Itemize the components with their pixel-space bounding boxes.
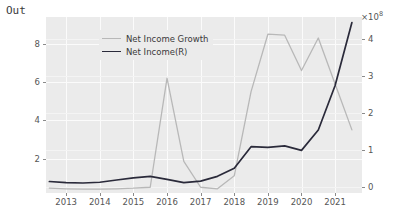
x-axis-tickmark <box>167 193 168 196</box>
y-axis-right-tickmark <box>362 113 365 114</box>
chart-legend: Net Income Growth Net Income(R) <box>99 30 213 60</box>
legend-color-swatch-net-income <box>102 51 121 52</box>
y-axis-left-tickmark <box>43 82 46 83</box>
y-axis-right-tickmark <box>362 39 365 40</box>
y-axis-right-tick-label: 1 <box>368 145 394 155</box>
legend-item-net-income[interactable]: Net Income(R) <box>102 46 208 57</box>
x-axis-tickmark <box>133 193 134 196</box>
y-axis-left-tick-label: 6 <box>14 77 40 87</box>
y-axis-right-tickmark <box>362 187 365 188</box>
y-axis-right-tickmark <box>362 76 365 77</box>
x-axis-tickmark <box>335 193 336 196</box>
x-axis-tickmark <box>234 193 235 196</box>
legend-item-net-income-growth[interactable]: Net Income Growth <box>102 33 208 44</box>
y-axis-left-tick-label: 2 <box>14 154 40 164</box>
x-axis-tickmark <box>66 193 67 196</box>
x-axis-tickmark <box>268 193 269 196</box>
legend-label-growth: Net Income Growth <box>126 34 208 44</box>
y-axis-left-tickmark <box>43 159 46 160</box>
y-axis-right-tick-label: 2 <box>368 108 394 118</box>
legend-color-swatch-growth <box>102 38 121 39</box>
y-axis-left-tick-label: 4 <box>14 115 40 125</box>
y-axis-left-tickmark <box>43 120 46 121</box>
chart-figure: Net Income Growth Net Income(R) ×108 246… <box>0 10 397 205</box>
y-axis-right-tick-label: 4 <box>368 34 394 44</box>
y-axis-right-tick-label: 0 <box>368 182 394 192</box>
plot-area: Net Income Growth Net Income(R) <box>46 17 362 193</box>
y-axis-right-tickmark <box>362 150 365 151</box>
y-axis-right-tick-label: 3 <box>368 71 394 81</box>
y-axis-left-tickmark <box>43 44 46 45</box>
x-axis-tickmark <box>201 193 202 196</box>
right-axis-exponent-label: ×108 <box>361 10 383 22</box>
y-axis-left-tick-label: 8 <box>14 39 40 49</box>
x-axis-tickmark <box>301 193 302 196</box>
x-axis-tickmark <box>100 193 101 196</box>
notebook-output-cell: Out Net Income Growth Net Income(R) ×108… <box>0 0 397 214</box>
legend-label-net-income: Net Income(R) <box>126 47 187 57</box>
x-axis-tick-label: 2021 <box>315 197 355 207</box>
